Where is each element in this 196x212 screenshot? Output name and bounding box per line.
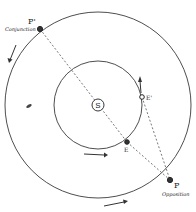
arrow-outer-left bbox=[8, 45, 17, 63]
orbit-diagram: S P' Conjunction P Opposition E E' bbox=[0, 0, 196, 212]
planet-conjunction bbox=[37, 26, 42, 31]
label-p-prime: P' bbox=[28, 17, 36, 26]
label-p: P bbox=[174, 181, 180, 190]
planet-opposition bbox=[167, 177, 172, 182]
label-e: E bbox=[124, 146, 128, 153]
opposition-line bbox=[127, 142, 170, 180]
arrow-outer-bottom bbox=[104, 200, 128, 207]
ink-mark bbox=[26, 103, 33, 109]
label-e-prime: E' bbox=[146, 94, 152, 101]
sun-label: S bbox=[95, 101, 100, 110]
label-conjunction: Conjunction bbox=[5, 26, 36, 33]
earth-e-prime bbox=[140, 95, 145, 100]
label-opposition: Opposition bbox=[162, 191, 190, 198]
sightline-e-prime bbox=[142, 97, 170, 180]
conjunction-line bbox=[40, 29, 127, 142]
earth-e bbox=[125, 140, 130, 145]
arrow-inner-bottom bbox=[84, 153, 108, 158]
